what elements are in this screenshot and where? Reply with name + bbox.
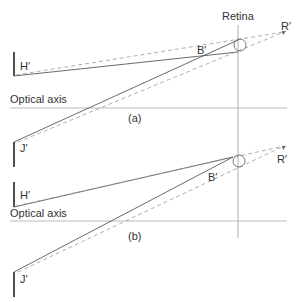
optical-axis-b-label: Optical axis [10,207,67,219]
optical-axis-a-label: Optical axis [10,93,67,105]
arrow-b [282,146,286,150]
eye-lens-b [233,155,245,167]
b-prime-b-label: B′ [208,171,217,183]
panel-b: R′ B′ H′ Optical axis (b) J′ [10,146,287,297]
r-prime-b-label: R′ [277,153,287,165]
b-prime-a-label: B′ [197,44,206,56]
ray-h-a-dashed [16,32,284,75]
retina-label: Retina [222,10,255,22]
h-prime-b-label: H′ [20,189,30,201]
h-prime-a-label: H′ [20,60,30,72]
eye-lens-a [234,39,246,51]
ray-j-a-dashed [18,32,284,142]
panel-a: Retina R′ B′ H′ Optical axis (a) J′ [10,10,291,167]
optics-diagram: Retina R′ B′ H′ Optical axis (a) J′ R′ B… [0,0,299,302]
j-prime-b-label: J′ [20,273,28,285]
panel-b-label: (b) [128,230,141,242]
r-prime-a-label: R′ [281,20,291,32]
panel-a-label: (a) [128,112,141,124]
j-prime-a-label: J′ [20,142,28,154]
